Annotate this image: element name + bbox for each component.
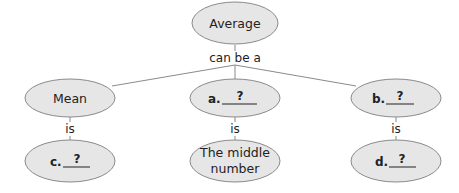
- node-b-question-mark: ?: [397, 89, 404, 103]
- node-a-letter: a.: [208, 92, 221, 106]
- node-d-letter: d.: [375, 155, 388, 169]
- node-c-letter: c.: [50, 155, 62, 169]
- node-a-question-mark: ?: [237, 89, 244, 103]
- node-c-blank[interactable]: c. ?: [25, 140, 115, 182]
- node-d-question-mark: ?: [399, 152, 406, 166]
- node-d-blank[interactable]: d. ?: [351, 140, 441, 182]
- node-average: Average: [192, 2, 278, 44]
- node-the-middle-number: The middle number: [190, 140, 280, 182]
- node-mean-label: Mean: [53, 91, 87, 106]
- node-mean: Mean: [25, 79, 115, 117]
- node-middle-label-line1: The middle: [199, 145, 270, 160]
- node-c-question-mark: ?: [74, 152, 81, 166]
- link-label-mean-is: is: [65, 122, 75, 136]
- node-middle-label-line2: number: [211, 161, 261, 176]
- node-b-blank[interactable]: b. ?: [351, 79, 441, 117]
- node-a-blank[interactable]: a. ?: [190, 79, 280, 117]
- link-label-can-be-a: can be a: [209, 51, 261, 65]
- concept-map: Average can be a Mean a. ? b. ? is is is…: [0, 0, 459, 193]
- link-label-a-is: is: [230, 122, 240, 136]
- node-b-letter: b.: [372, 92, 385, 106]
- node-average-label: Average: [209, 16, 261, 31]
- link-label-b-is: is: [391, 122, 401, 136]
